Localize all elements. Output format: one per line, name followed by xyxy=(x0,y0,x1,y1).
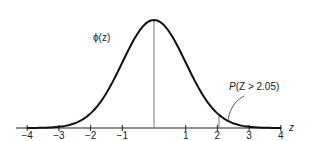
annotation-arrow xyxy=(228,96,244,120)
x-tick-label: −4 xyxy=(21,130,33,141)
x-tick-label: −1 xyxy=(117,130,129,141)
tail-probability-label: P(Z > 2.05) xyxy=(229,81,279,92)
x-tick-label: 1 xyxy=(183,130,189,141)
normal-distribution-chart: −4−3−2−11234 z ϕ(z) P(Z > 2.05) xyxy=(0,0,313,141)
x-axis-tick-labels: −4−3−2−11234 xyxy=(21,130,284,141)
curve-label: ϕ(z) xyxy=(93,32,110,43)
x-tick-label: −3 xyxy=(53,130,65,141)
x-tick-label: 2 xyxy=(215,130,221,141)
x-tick-label: −2 xyxy=(85,130,97,141)
x-tick-label: 4 xyxy=(278,130,284,141)
x-tick-label: 3 xyxy=(246,130,252,141)
axis-label-z: z xyxy=(288,122,294,133)
